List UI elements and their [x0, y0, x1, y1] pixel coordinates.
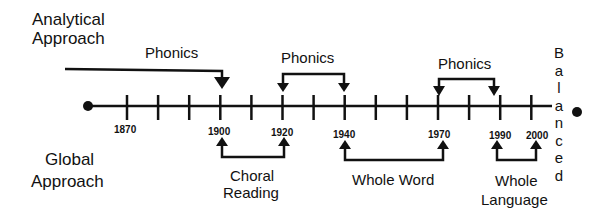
analytical-approach-label-line1: Analytical	[32, 10, 105, 29]
balanced-letter: l	[552, 79, 566, 97]
whole-word-arrowhead-b	[437, 140, 449, 149]
year-label-1870: 1870	[114, 124, 136, 135]
choral-arrowhead-b	[278, 137, 290, 146]
balanced-letter: e	[552, 149, 566, 167]
global-approach-label-line1: Global	[45, 150, 94, 169]
analytical-approach-label-line2: Approach	[32, 29, 105, 48]
global-approach-label-line2: Approach	[31, 172, 104, 191]
phonics-arrowhead-2b	[338, 83, 350, 92]
choral-reading-label-line2: Reading	[223, 184, 279, 201]
phonics-arrowhead-1	[214, 77, 230, 89]
choral-reading-label-line1: Choral	[230, 167, 274, 184]
phonics-bracket-2	[283, 74, 344, 88]
phonics-label-2: Phonics	[281, 49, 334, 66]
balanced-letter: B	[552, 44, 566, 62]
whole-word-arrowhead-a	[339, 140, 351, 149]
whole-language-arrowhead-a	[491, 140, 503, 149]
year-label-1940: 1940	[333, 129, 355, 140]
choral-bracket	[222, 144, 284, 157]
balanced-label: Balanced	[552, 44, 566, 184]
whole-word-bracket	[345, 147, 443, 160]
year-label-2000: 2000	[526, 130, 548, 141]
end-dot	[572, 107, 582, 117]
balanced-letter: c	[552, 132, 566, 150]
phonics-arrowhead-2a	[277, 83, 289, 92]
phonics-bracket-3	[439, 79, 494, 90]
start-dot	[83, 101, 93, 111]
year-label-1970: 1970	[428, 129, 450, 140]
whole-word-label: Whole Word	[352, 171, 434, 188]
year-label-1990: 1990	[489, 130, 511, 141]
balanced-letter: a	[552, 62, 566, 80]
balanced-letter: d	[552, 167, 566, 185]
whole-language-label-line2: Language	[481, 191, 548, 208]
balanced-letter: n	[552, 114, 566, 132]
phonics-label-3: Phonics	[438, 55, 491, 72]
choral-arrowhead-a	[216, 137, 228, 146]
phonics-arrowhead-3b	[488, 86, 500, 96]
year-label-1900: 1900	[208, 126, 230, 137]
year-label-1920: 1920	[271, 127, 293, 138]
balanced-letter: a	[552, 97, 566, 115]
whole-language-arrowhead-b	[530, 140, 542, 149]
phonics-label-1: Phonics	[145, 44, 198, 61]
phonics-arrowhead-3a	[433, 86, 445, 96]
phonics-arrow-1	[65, 69, 222, 84]
whole-language-label-line1: Whole	[495, 172, 538, 189]
